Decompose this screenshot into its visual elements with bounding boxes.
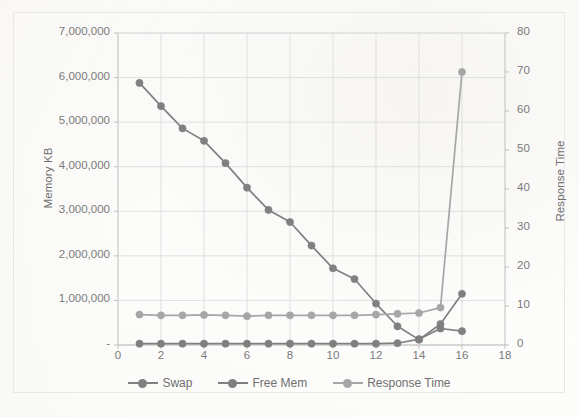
x-axis-tick-label: 0 [103,349,133,361]
legend-marker-icon [333,377,363,389]
data-point-marker [351,312,358,319]
legend-item-label: Swap [162,376,192,390]
data-point-marker [372,300,379,307]
x-axis-tick-label: 8 [275,349,305,361]
legend-dot-swatch [228,379,237,388]
gridlines [118,33,505,345]
y-axis-left-tick-label: 6,000,000 [24,70,110,82]
data-point-marker [200,311,207,318]
legend-item-swap[interactable]: Swap [128,376,192,390]
data-point-marker [243,184,250,191]
data-point-marker [265,340,272,347]
data-point-marker [179,340,186,347]
series-free-mem [136,325,466,347]
data-point-marker [286,312,293,319]
series-line [140,72,463,316]
y-axis-right-tick-label: 80 [517,25,557,37]
data-point-marker [222,312,229,319]
legend-dot-swatch [343,379,352,388]
data-series-group [136,68,466,347]
data-point-marker [329,312,336,319]
data-point-marker [394,340,401,347]
data-point-marker [222,160,229,167]
data-point-marker [458,290,465,297]
x-axis-tick-label: 4 [189,349,219,361]
data-point-marker [437,325,444,332]
y-axis-right-tick-label: 40 [517,181,557,193]
series-response-time [136,68,466,319]
data-point-marker [200,340,207,347]
data-point-marker [308,242,315,249]
legend-marker-icon [128,377,158,389]
legend-dot-swatch [138,379,147,388]
y-axis-right-tick-label: 60 [517,103,557,115]
data-point-marker [394,310,401,317]
y-axis-right-tick-label: 0 [517,337,557,349]
data-point-marker [136,79,143,86]
data-point-marker [351,275,358,282]
y-axis-right-tick-label: 70 [517,64,557,76]
x-axis-tick-label: 12 [361,349,391,361]
legend-item-response-time[interactable]: Response Time [333,376,450,390]
data-point-marker [136,340,143,347]
axis-tick-marks [114,33,509,349]
y-axis-right-tick-label: 50 [517,142,557,154]
data-point-marker [308,312,315,319]
data-point-marker [179,125,186,132]
y-axis-left-tick-label: 5,000,000 [24,114,110,126]
data-point-marker [458,68,465,75]
x-axis-tick-label: 14 [404,349,434,361]
data-point-marker [157,312,164,319]
data-point-marker [222,340,229,347]
data-point-marker [265,312,272,319]
y-axis-left-tick-label: 1,000,000 [24,292,110,304]
legend-item-free-mem[interactable]: Free Mem [218,376,307,390]
data-point-marker [286,340,293,347]
y-axis-left-tick-label: 2,000,000 [24,248,110,260]
data-point-marker [415,309,422,316]
data-point-marker [308,340,315,347]
x-axis-tick-label: 6 [232,349,262,361]
data-point-marker [372,340,379,347]
x-axis-tick-label: 18 [490,349,520,361]
y-axis-left-tick-label: 7,000,000 [24,25,110,37]
chart-container: Memory KB Response Time -1,000,0002,000,… [0,0,579,417]
legend-item-label: Free Mem [252,376,307,390]
x-axis-tick-label: 2 [146,349,176,361]
data-point-marker [329,265,336,272]
data-point-marker [179,312,186,319]
data-point-marker [243,340,250,347]
legend-marker-icon [218,377,248,389]
x-axis-tick-label: 16 [447,349,477,361]
data-point-marker [351,340,358,347]
data-point-marker [415,336,422,343]
chart-legend: SwapFree MemResponse Time [0,376,579,390]
data-point-marker [157,103,164,110]
data-point-marker [157,340,164,347]
data-point-marker [243,313,250,320]
data-point-marker [437,304,444,311]
data-point-marker [394,323,401,330]
data-point-marker [372,311,379,318]
data-point-marker [329,340,336,347]
data-point-marker [136,311,143,318]
y-axis-right-tick-label: 10 [517,298,557,310]
data-point-marker [265,206,272,213]
y-axis-left-tick-label: - [24,337,110,349]
data-point-marker [286,218,293,225]
data-point-marker [458,328,465,335]
x-axis-tick-label: 10 [318,349,348,361]
legend-item-label: Response Time [367,376,450,390]
y-axis-right-tick-label: 30 [517,220,557,232]
y-axis-right-tick-label: 20 [517,259,557,271]
axis-lines [118,33,505,345]
y-axis-left-tick-label: 4,000,000 [24,159,110,171]
data-point-marker [200,137,207,144]
y-axis-left-tick-label: 3,000,000 [24,203,110,215]
